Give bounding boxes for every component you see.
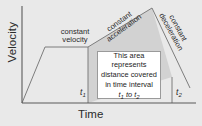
x-tick-label-t1: t1 bbox=[80, 88, 86, 97]
x-tick-label-t2-subscript: 2 bbox=[178, 92, 181, 98]
x-tick-label-t1-subscript: 1 bbox=[82, 92, 85, 98]
area-box-to-word: to bbox=[124, 90, 134, 99]
area-box-line-4: in time interval bbox=[105, 80, 153, 90]
area-box-t2-subscript: 2 bbox=[136, 94, 139, 100]
area-box-line-2: represents bbox=[112, 60, 147, 70]
area-box-line-3: distance covered bbox=[101, 70, 157, 80]
velocity-time-graph-figure: Velocity Time constant velocity constant… bbox=[0, 0, 202, 126]
annotation-constant-velocity-line2: velocity bbox=[52, 36, 98, 44]
area-box-line-1: This area bbox=[114, 51, 145, 61]
annotation-constant-velocity: constant velocity bbox=[52, 28, 98, 44]
area-box-t1-subscript: 1 bbox=[121, 94, 124, 100]
y-axis-label: Velocity bbox=[6, 11, 18, 73]
area-box-line-5: t1 to t2 bbox=[118, 90, 139, 100]
area-description-box: This area represents distance covered in… bbox=[97, 51, 161, 99]
x-tick-label-t2: t2 bbox=[176, 88, 182, 97]
x-axis-label: Time bbox=[78, 108, 104, 120]
